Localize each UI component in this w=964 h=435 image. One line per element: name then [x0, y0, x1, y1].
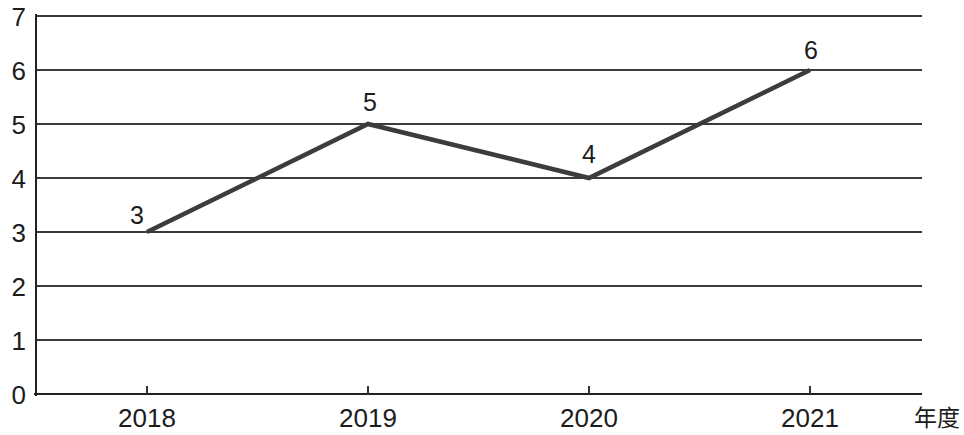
- chart-canvas: 7 6 5 4 3 2 1 0 2018 2019 2020 2021 年度 3…: [0, 0, 964, 435]
- data-series-line: [147, 70, 810, 232]
- x-axis-tick-labels: 2018 2019 2020 2021: [118, 403, 839, 433]
- y-tick-label-2: 2: [12, 272, 26, 302]
- y-axis-tick-labels: 7 6 5 4 3 2 1 0: [12, 2, 26, 410]
- data-point-labels-group: 3 5 4 6: [130, 36, 818, 229]
- y-tick-label-0: 0: [12, 380, 26, 410]
- y-tick-label-7: 7: [12, 2, 26, 32]
- line-chart-figure: 7 6 5 4 3 2 1 0 2018 2019 2020 2021 年度 3…: [0, 0, 964, 435]
- data-point-label-2021: 6: [804, 36, 818, 64]
- y-tick-label-1: 1: [12, 326, 26, 356]
- gridlines-group: [36, 16, 922, 340]
- data-point-label-2018: 3: [130, 201, 144, 229]
- x-tick-label-2021: 2021: [781, 403, 839, 433]
- y-tick-label-4: 4: [12, 164, 26, 194]
- y-tick-label-6: 6: [12, 56, 26, 86]
- x-tick-label-2019: 2019: [339, 403, 397, 433]
- x-tick-label-2020: 2020: [560, 403, 618, 433]
- x-axis-title: 年度: [914, 405, 960, 431]
- y-tick-label-3: 3: [12, 218, 26, 248]
- x-tick-label-2018: 2018: [118, 403, 176, 433]
- y-tick-label-5: 5: [12, 110, 26, 140]
- data-point-label-2019: 5: [363, 88, 377, 116]
- data-point-label-2020: 4: [582, 140, 596, 168]
